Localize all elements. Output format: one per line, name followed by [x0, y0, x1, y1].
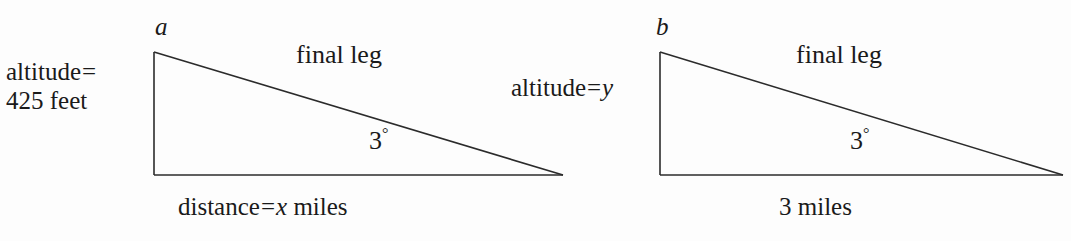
triangle-a-vertex-label: a [155, 12, 168, 41]
triangle-a-base-suffix: miles [287, 193, 347, 220]
triangle-a-angle-value: 3 [369, 126, 382, 155]
triangle-a-hypotenuse-label: final leg [296, 40, 382, 70]
triangle-b-altitude-variable: y [602, 74, 613, 101]
triangle-a-base-variable: x [276, 193, 287, 220]
triangle-b-altitude-word: altitude [511, 74, 586, 101]
triangle-b-hypotenuse-side [660, 52, 1063, 175]
triangle-a-degree-symbol: ° [382, 125, 388, 142]
triangle-b-angle-value: 3 [850, 126, 863, 155]
triangle-b-degree-symbol: ° [863, 125, 869, 142]
triangle-b-angle-label: 3° [850, 126, 869, 156]
triangle-b-altitude-equals: = [586, 74, 602, 101]
triangle-b-altitude-label: altitude=y [511, 73, 613, 102]
triangle-b-shape [660, 52, 1063, 175]
triangle-a-base-prefix: distance [178, 193, 260, 220]
triangle-a-altitude-label: altitude= 425 feet [6, 57, 97, 115]
triangle-a-base-label: distance=x miles [178, 192, 348, 221]
triangle-a-shape [154, 52, 563, 175]
triangle-figure: a altitude= 425 feet final leg 3° distan… [0, 0, 1071, 241]
triangle-a-angle-label: 3° [369, 126, 388, 156]
triangle-a-altitude-line1: altitude= [6, 58, 97, 85]
triangle-a-base-equals: = [260, 193, 276, 220]
triangle-a-altitude-word: altitude [6, 58, 81, 85]
triangle-a-hypotenuse-side [154, 52, 563, 175]
triangle-a-altitude-line2: 425 feet [6, 87, 87, 114]
triangle-b-base-label: 3 miles [779, 192, 852, 221]
triangle-b-vertex-label: b [656, 12, 669, 41]
triangle-a-altitude-equals: = [81, 58, 97, 85]
triangle-b-hypotenuse-label: final leg [796, 40, 882, 70]
